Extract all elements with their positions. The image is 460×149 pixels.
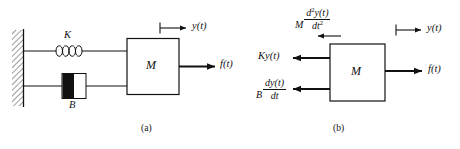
mechanical-system-figure: K B M y(t) f(t) (a) M d2y(t) dt2 Ky(t) B… [0, 0, 460, 149]
mass-label-b: M [351, 65, 361, 77]
inertial-force-label: M d2y(t) dt2 [295, 8, 330, 31]
inertial-force-denominator: dt2 [304, 19, 330, 31]
damper-constant-label: B [69, 100, 75, 111]
damping-force-denominator: dt [263, 89, 286, 101]
mass-label-a: M [146, 59, 156, 71]
fixed-wall-icon [12, 29, 24, 107]
panel-b-artwork [293, 25, 422, 102]
inertial-force-fraction: d2y(t) dt2 [304, 8, 330, 31]
applied-force-label-a: f(t) [220, 59, 233, 70]
spring-force-label: Ky(t) [258, 51, 280, 62]
damping-force-fraction: dy(t) dt [263, 78, 286, 101]
figure-artwork [0, 0, 460, 149]
spring-element [24, 46, 128, 57]
panel-a-caption: (a) [141, 123, 152, 133]
spring-coil-icon [56, 46, 82, 57]
displacement-indicator-a [160, 23, 186, 34]
inertial-force-numerator: d2y(t) [304, 8, 330, 19]
applied-force-label-b: f(t) [428, 64, 441, 75]
spring-constant-label: K [64, 30, 71, 41]
damping-force-numerator: dy(t) [263, 78, 286, 89]
damping-force-coefficient: B [256, 90, 263, 101]
inertial-force-coefficient: M [295, 20, 304, 31]
displacement-label-a: y(t) [192, 21, 207, 32]
damper-piston-fill [63, 74, 75, 98]
displacement-indicator-b [396, 25, 421, 36]
damper-element [24, 74, 128, 99]
damping-force-label: B dy(t) dt [256, 78, 286, 101]
panel-a-artwork [12, 23, 215, 108]
panel-b-caption: (b) [333, 123, 344, 133]
displacement-label-b: y(t) [427, 23, 442, 34]
